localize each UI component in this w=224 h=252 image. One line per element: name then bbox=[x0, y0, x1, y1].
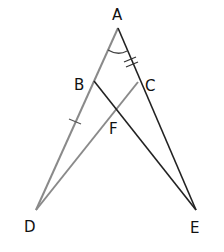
angle-arc-A bbox=[108, 50, 127, 53]
label-F: F bbox=[109, 120, 118, 138]
segment-CD bbox=[36, 82, 138, 210]
label-C: C bbox=[145, 77, 155, 95]
segment-BE bbox=[94, 81, 196, 210]
segment-AE bbox=[118, 28, 196, 210]
segment-AD bbox=[36, 28, 118, 210]
label-D: D bbox=[24, 218, 36, 236]
label-A: A bbox=[112, 6, 123, 24]
tick-mark-AC-2 bbox=[126, 62, 138, 67]
geometry-diagram: A B C F D E bbox=[0, 0, 224, 252]
label-E: E bbox=[190, 219, 199, 237]
label-B: B bbox=[74, 76, 84, 94]
